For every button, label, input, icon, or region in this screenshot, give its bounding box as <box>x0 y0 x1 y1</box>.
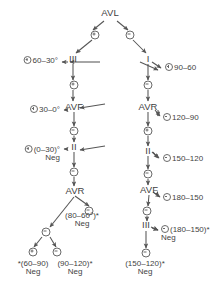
decision-tree-diagram: AVLIIIIAVFAVRIIIIAVRAVFIII 60–30°90–6030… <box>0 0 221 292</box>
leaf-value: 120–90 <box>172 113 199 122</box>
tree-node-avr1: AVR <box>65 186 84 196</box>
tree-node-avl: AVL <box>101 8 119 18</box>
tree-node-i: I <box>147 54 150 64</box>
sign-minus-icon <box>163 193 171 201</box>
tree-node-avf1: AVF <box>65 102 83 112</box>
sign-minus-icon <box>163 154 171 162</box>
leaf-neg-label: Neg <box>125 268 165 276</box>
sign-minus-icon <box>142 249 151 258</box>
leaf-text-line: 60–30° <box>24 56 58 65</box>
tree-leaf-leaf-80-60: (80–60°)*Neg <box>65 212 99 228</box>
tree-node-iii2: III <box>142 220 150 230</box>
tree-node-ii2: II <box>145 146 150 156</box>
sign-plus-icon <box>24 56 32 64</box>
leaf-value: 150–120 <box>172 154 203 163</box>
sign-minus-icon <box>143 207 152 216</box>
tree-node-ii1: II <box>71 142 76 152</box>
tree-leaf-leaf-150-120: 150–120 <box>163 154 203 163</box>
sign-plus-icon <box>165 63 173 71</box>
tree-leaf-leaf-90-60: 90–60 <box>165 63 196 72</box>
sign-plus-icon <box>144 127 153 136</box>
sign-minus-icon <box>42 228 51 237</box>
sign-minus-icon <box>53 248 62 257</box>
tree-leaf-leaf-90-120: (90–120)*Neg <box>57 260 92 276</box>
leaf-text-line: 180–150 <box>163 193 203 202</box>
leaf-text-line: 120–90 <box>163 113 199 122</box>
leaf-neg-label: Neg <box>65 220 99 228</box>
leaf-value: (180–150)* <box>170 225 210 234</box>
sign-plus-icon <box>29 248 38 257</box>
leaf-neg-label: Neg <box>18 268 49 276</box>
leaf-value: 30–0° <box>39 105 60 114</box>
tree-leaf-leaf-60-30: 60–30° <box>24 56 58 65</box>
leaf-value: 60–30° <box>33 56 58 65</box>
tree-leaf-leaf-180-150b: (180–150)*Neg <box>161 225 210 242</box>
tree-node-avr2: AVR <box>138 102 157 112</box>
sign-minus-icon <box>163 113 171 121</box>
tree-leaf-leaf-60-90: *(60–90)Neg <box>18 260 49 276</box>
sign-minus-icon <box>144 81 153 90</box>
sign-plus-icon <box>70 81 79 90</box>
leaf-value: 180–150 <box>172 193 203 202</box>
leaf-text-line: 90–60 <box>165 63 196 72</box>
leaf-text-line: 30–0° <box>30 105 60 114</box>
sign-minus-icon <box>126 31 135 40</box>
leaf-neg-label: Neg <box>57 268 92 276</box>
sign-plus-icon <box>30 105 38 113</box>
tree-leaf-leaf-0-30: (0–30)°Neg <box>25 145 60 162</box>
tree-node-iii: III <box>69 54 77 64</box>
tree-leaf-leaf-150-120b: (150–120)*Neg <box>125 260 165 276</box>
leaf-neg-label: Neg <box>161 234 210 242</box>
tree-leaf-leaf-180-150a: 180–150 <box>163 193 203 202</box>
sign-plus-icon <box>25 145 33 153</box>
sign-plus-icon <box>91 31 100 40</box>
tree-leaf-leaf-30-0: 30–0° <box>30 105 60 114</box>
sign-minus-icon <box>144 170 153 179</box>
leaf-value: 90–60 <box>174 63 196 72</box>
tree-leaf-leaf-120-90: 120–90 <box>163 113 199 122</box>
sign-minus-icon <box>70 127 79 136</box>
sign-minus-icon <box>161 225 169 233</box>
tree-node-avf2: AVF <box>140 185 158 195</box>
leaf-text-line: 150–120 <box>163 154 203 163</box>
sign-minus-icon <box>70 168 79 177</box>
leaf-neg-label: Neg <box>25 154 60 162</box>
